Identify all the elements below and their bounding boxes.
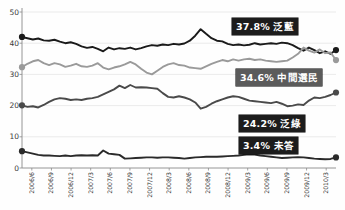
x-axis-tick-label: 2008/9 <box>205 172 211 194</box>
x-axis-tick-label: 2008/12 <box>225 172 231 198</box>
x-axis-tick-label: 2007/3 <box>88 172 94 194</box>
x-axis-tick-label: 2007/12 <box>147 172 153 198</box>
poll-trend-chart: 01020304050 2006/62006/92006/122007/3200… <box>0 0 345 210</box>
x-axis-tick-label: 2009/9 <box>284 172 290 194</box>
x-axis-tick-label: 2007/6 <box>107 172 113 194</box>
x-axis-tick-label: 2009/3 <box>245 172 251 194</box>
series-end-marker <box>333 154 339 160</box>
svg-text:40: 40 <box>9 39 19 48</box>
series-start-marker <box>19 64 25 70</box>
svg-text:0: 0 <box>14 164 19 173</box>
series-end-marker <box>333 47 339 53</box>
chart-caption <box>22 203 342 210</box>
x-axis-tick-label: 2006/6 <box>29 172 35 194</box>
svg-text:50: 50 <box>9 8 19 17</box>
series-end-marker <box>333 89 339 95</box>
series-start-marker <box>19 102 25 108</box>
x-axis-tick-label: 2009/12 <box>304 172 310 198</box>
series-end-marker <box>333 57 339 63</box>
series-value-callout: 37.8% 泛藍 <box>232 18 298 35</box>
svg-text:10: 10 <box>9 132 19 141</box>
x-axis-tick-label: 2009/6 <box>264 172 270 194</box>
series-value-callout: 34.6% 中間選民 <box>236 69 322 86</box>
x-axis-tick-label: 2010/3 <box>323 172 329 194</box>
x-axis-tick-label: 2006/9 <box>48 172 54 194</box>
y-axis-tick-labels: 01020304050 <box>9 8 22 173</box>
x-axis-tick-label: 2008/6 <box>186 172 192 194</box>
series-line-泛綠 <box>22 85 336 109</box>
series-value-callout: 24.2% 泛綠 <box>239 115 305 132</box>
series-start-marker <box>19 148 25 154</box>
x-axis-tick-label: 2007/9 <box>127 172 133 194</box>
series-start-marker <box>19 34 25 40</box>
x-axis-tick-label: 2008/3 <box>166 172 172 194</box>
svg-text:30: 30 <box>9 70 19 79</box>
svg-text:20: 20 <box>9 101 19 110</box>
x-axis-tick-label: 2006/12 <box>68 172 74 198</box>
series-value-callout: 3.4% 未答 <box>239 137 298 154</box>
